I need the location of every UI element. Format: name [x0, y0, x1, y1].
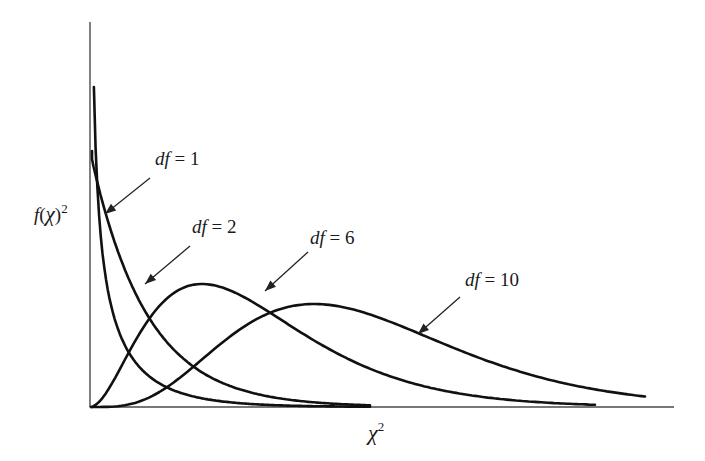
curve-df-2 — [92, 151, 370, 405]
series-label-df-1: df = 1 — [155, 148, 200, 169]
series-label-df-2: df = 2 — [192, 216, 237, 237]
annotation-df-2: df = 2 — [145, 216, 237, 284]
axes — [90, 22, 674, 407]
annotations: df = 1 df = 2 df = 6 df = 10 — [105, 148, 519, 334]
chi-square-distribution-chart: df = 1 df = 2 df = 6 df = 10 χ2 f(χ)2 — [0, 0, 705, 461]
series-label-df-6: df = 6 — [310, 227, 355, 248]
annotation-df-6: df = 6 — [265, 227, 355, 291]
y-axis-label: f(χ)2 — [34, 201, 68, 226]
annotation-df-1: df = 1 — [105, 148, 200, 214]
annotation-df-10: df = 10 — [418, 269, 519, 334]
x-axis-label: χ2 — [366, 419, 384, 445]
arrowhead-icon — [105, 204, 116, 214]
curves — [91, 87, 645, 407]
series-label-df-10: df = 10 — [465, 269, 519, 290]
